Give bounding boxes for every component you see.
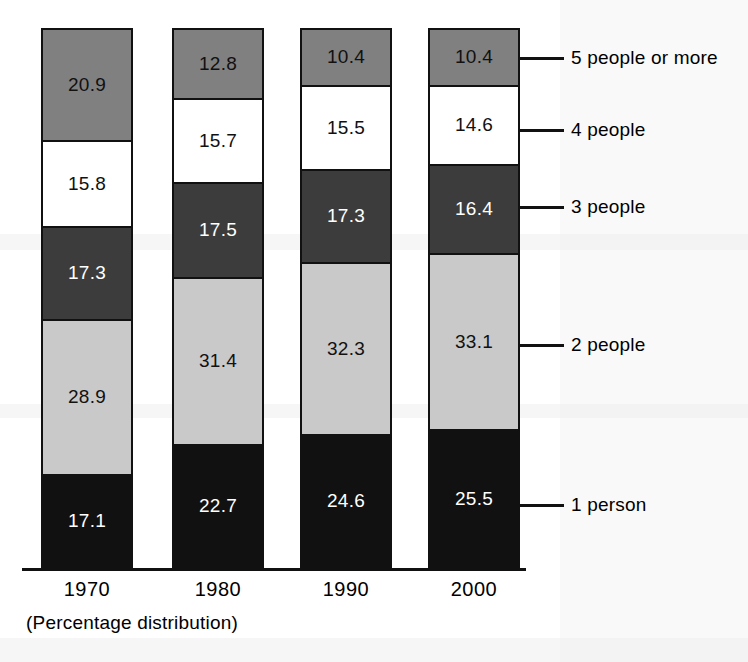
- bar-segment-2000-5-people-or-more: 10.4: [430, 30, 518, 85]
- segment-value-label: 17.5: [199, 219, 237, 241]
- bar-segment-2000-4-people: 14.6: [430, 85, 518, 164]
- bar-segment-1980-1-person: 22.7: [174, 444, 262, 566]
- segment-value-label: 10.4: [327, 46, 365, 68]
- legend-label: 1 person: [571, 494, 647, 516]
- bar-1970: 20.915.817.328.917.1: [41, 28, 133, 568]
- segment-value-label: 32.3: [327, 338, 365, 360]
- x-tick-label-2000: 2000: [428, 578, 520, 601]
- segment-value-label: 31.4: [199, 350, 237, 372]
- bar-segment-2000-2-people: 33.1: [430, 253, 518, 430]
- bar-segment-1970-5-people-or-more: 20.9: [43, 30, 131, 140]
- legend-entry-4-people: 4 people: [520, 120, 646, 140]
- legend-label: 4 people: [571, 119, 646, 141]
- legend-entry-5-people-or-more: 5 people or more: [520, 48, 718, 68]
- legend-leader-line: [520, 57, 564, 60]
- segment-value-label: 17.3: [327, 205, 365, 227]
- legend-leader-line: [520, 344, 564, 347]
- segment-value-label: 14.6: [455, 114, 493, 136]
- bar-1990: 10.415.517.332.324.6: [300, 28, 392, 568]
- legend-leader-line: [520, 129, 564, 132]
- bar-segment-2000-3-people: 16.4: [430, 164, 518, 253]
- segment-value-label: 17.1: [68, 510, 106, 532]
- legend-entry-3-people: 3 people: [520, 197, 646, 217]
- bar-segment-1990-5-people-or-more: 10.4: [302, 30, 390, 85]
- segment-value-label: 15.5: [327, 117, 365, 139]
- bar-segment-1970-3-people: 17.3: [43, 226, 131, 319]
- bar-segment-1980-3-people: 17.5: [174, 182, 262, 276]
- bar-segment-1990-3-people: 17.3: [302, 169, 390, 262]
- stacked-bar-chart: 20.915.817.328.917.112.815.717.531.422.7…: [0, 0, 748, 662]
- segment-value-label: 22.7: [199, 495, 237, 517]
- segment-value-label: 15.7: [199, 130, 237, 152]
- segment-value-label: 24.6: [327, 490, 365, 512]
- segment-value-label: 17.3: [68, 262, 106, 284]
- bar-2000: 10.414.616.433.125.5: [428, 28, 520, 568]
- bar-segment-1970-4-people: 15.8: [43, 140, 131, 225]
- segment-value-label: 12.8: [199, 53, 237, 75]
- bar-segment-1990-2-people: 32.3: [302, 262, 390, 434]
- bar-segment-1980-5-people-or-more: 12.8: [174, 30, 262, 98]
- legend-entry-1-person: 1 person: [520, 495, 647, 515]
- bar-segment-1980-2-people: 31.4: [174, 277, 262, 445]
- segment-value-label: 20.9: [68, 74, 106, 96]
- segment-value-label: 16.4: [455, 198, 493, 220]
- bar-segment-2000-1-person: 25.5: [430, 429, 518, 566]
- segment-value-label: 25.5: [455, 488, 493, 510]
- legend-label: 5 people or more: [571, 47, 718, 69]
- legend-label: 3 people: [571, 196, 646, 218]
- bar-segment-1970-2-people: 28.9: [43, 319, 131, 474]
- bar-segment-1980-4-people: 15.7: [174, 98, 262, 183]
- segment-value-label: 10.4: [455, 46, 493, 68]
- x-tick-label-1990: 1990: [300, 578, 392, 601]
- bar-segment-1990-4-people: 15.5: [302, 85, 390, 169]
- legend-leader-line: [520, 206, 564, 209]
- legend-entry-2-people: 2 people: [520, 335, 646, 355]
- segment-value-label: 28.9: [68, 386, 106, 408]
- bar-1980: 12.815.717.531.422.7: [172, 28, 264, 568]
- legend-label: 2 people: [571, 334, 646, 356]
- bar-segment-1990-1-person: 24.6: [302, 434, 390, 566]
- legend-leader-line: [520, 504, 564, 507]
- x-tick-label-1980: 1980: [172, 578, 264, 601]
- segment-value-label: 15.8: [68, 173, 106, 195]
- x-tick-label-1970: 1970: [41, 578, 133, 601]
- bar-segment-1970-1-person: 17.1: [43, 474, 131, 566]
- segment-value-label: 33.1: [455, 331, 493, 353]
- chart-caption: (Percentage distribution): [26, 612, 238, 634]
- x-axis-line: [22, 568, 526, 571]
